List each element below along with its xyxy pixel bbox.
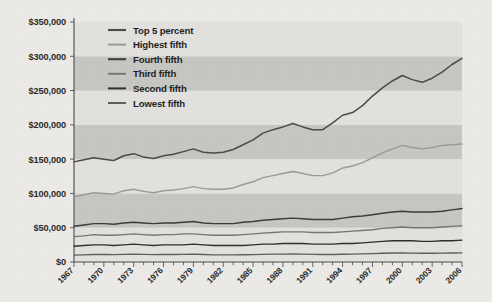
- y-axis-tick-labels: $0$50,000$100,000$150,000$200,000$250,00…: [28, 17, 66, 267]
- x-tick-label: 2006: [443, 265, 463, 285]
- legend-label-second-fifth: Second fifth: [133, 83, 187, 94]
- x-axis-tick-labels: 1967197019731976197919821985198819911994…: [55, 265, 463, 285]
- x-tick-label: 2003: [414, 265, 434, 285]
- y-tick-label: $300,000: [28, 52, 66, 62]
- x-tick-label: 1982: [205, 265, 225, 285]
- legend-label-highest-fifth: Highest fifth: [133, 39, 187, 50]
- y-tick-label: $0: [56, 257, 66, 267]
- legend-label-top-5-percent: Top 5 percent: [133, 25, 194, 36]
- x-tick-label: 1985: [235, 265, 255, 285]
- y-tick-label: $100,000: [28, 189, 66, 199]
- legend-label-lowest-fifth: Lowest fifth: [133, 98, 185, 109]
- x-tick-label: 1991: [294, 265, 314, 285]
- x-tick-label: 1994: [324, 265, 344, 285]
- x-tick-label: 1976: [145, 265, 165, 285]
- x-tick-label: 2000: [384, 265, 404, 285]
- y-tick-label: $50,000: [33, 223, 66, 233]
- legend-label-fourth-fifth: Fourth fifth: [133, 54, 183, 65]
- x-tick-label: 1988: [264, 265, 284, 285]
- y-tick-label: $200,000: [28, 120, 66, 130]
- x-tick-label: 1997: [354, 265, 374, 285]
- y-tick-label: $350,000: [28, 17, 66, 27]
- x-tick-label: 1970: [85, 265, 105, 285]
- x-tick-label: 1973: [115, 265, 135, 285]
- x-tick-label: 1979: [175, 265, 195, 285]
- y-tick-label: $150,000: [28, 155, 66, 165]
- chart-canvas: $0$50,000$100,000$150,000$200,000$250,00…: [0, 0, 492, 302]
- y-tick-label: $250,000: [28, 86, 66, 96]
- x-tick-label: 1967: [55, 265, 75, 285]
- income-quintiles-line-chart: $0$50,000$100,000$150,000$200,000$250,00…: [0, 0, 492, 302]
- legend-label-third-fifth: Third fifth: [133, 68, 176, 79]
